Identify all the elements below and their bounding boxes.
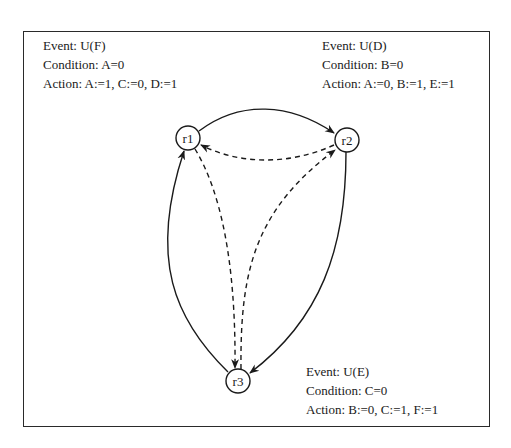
node-r3-label: r3 [233,374,244,389]
rule-r2-description: Event: U(D) Condition: B=0 Action: A:=0,… [322,36,455,93]
edge-r1-r2-solid [199,109,334,133]
node-r2-label: r2 [342,133,353,148]
rule-r1-action: Action: A:=1, C:=0, D:=1 [43,74,177,93]
node-r1[interactable]: r1 [176,126,200,150]
rule-r3-condition: Condition: C=0 [306,381,438,400]
rule-r3-action: Action: B:=0, C:=1, F:=1 [306,400,438,419]
rule-r3-event: Event: U(E) [306,362,438,381]
node-r2[interactable]: r2 [335,128,359,152]
edge-r1-r3-dashed [195,149,235,368]
edge-r3-r1-solid [168,151,228,372]
rule-r2-action: Action: A:=0, B:=1, E:=1 [322,74,455,93]
rule-r2-condition: Condition: B=0 [322,55,455,74]
rule-r1-event: Event: U(F) [43,36,177,55]
rule-r3-description: Event: U(E) Condition: C=0 Action: B:=0,… [306,362,438,419]
edge-r3-r2-dashed [241,150,335,369]
rule-r1-description: Event: U(F) Condition: A=0 Action: A:=1,… [43,36,177,93]
node-r1-label: r1 [183,131,194,146]
edge-r2-r3-solid [250,152,346,373]
edge-r2-r1-dashed [201,145,334,160]
rule-r1-condition: Condition: A=0 [43,55,177,74]
rule-r2-event: Event: U(D) [322,36,455,55]
node-r3[interactable]: r3 [226,369,250,393]
